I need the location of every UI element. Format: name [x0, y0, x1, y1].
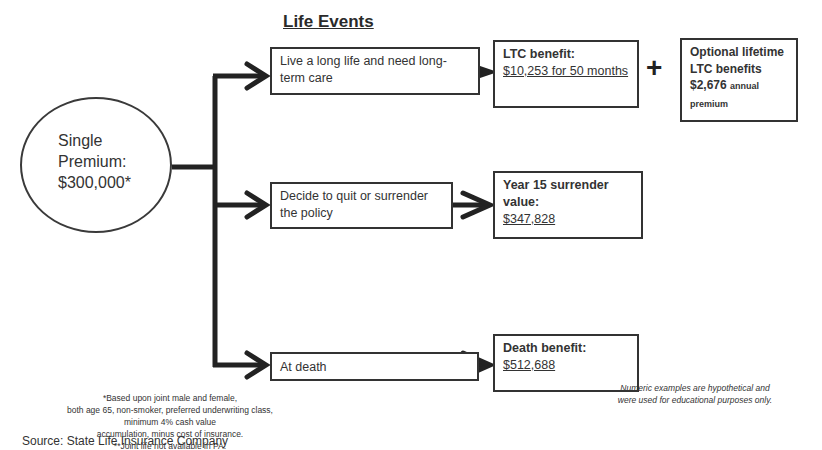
event-box-surrender: Decide to quit or surrender the policy: [270, 182, 453, 229]
disclaimer-line: Numeric examples are hypothetical and: [585, 382, 805, 394]
diagram-title: Life Events: [283, 12, 374, 32]
premium-line-1: Single: [58, 130, 131, 151]
footnote-line: *Based upon joint male and female,: [20, 392, 320, 404]
event-box-death: At death: [270, 352, 479, 381]
event-box-long-term-care: Live a long life and need long-term care: [270, 47, 480, 95]
optional-amount: $2,676: [690, 78, 727, 92]
footnote-line: both age 65, non-smoker, preferred under…: [20, 404, 320, 416]
event-label: At death: [280, 360, 327, 374]
plus-icon: +: [646, 52, 662, 84]
disclaimer: Numeric examples are hypothetical and we…: [585, 382, 805, 406]
premium-label: Single Premium: $300,000*: [58, 130, 131, 193]
event-label: Live a long life and need long-term care: [280, 54, 447, 85]
optional-ltc-box: Optional lifetime LTC benefits $2,676 an…: [680, 38, 798, 122]
premium-amount: $300,000*: [58, 172, 131, 193]
outcome-value: $10,253 for 50 months: [503, 63, 629, 80]
outcome-heading: Year 15 surrender value:: [503, 177, 633, 211]
source-credit: Source: State Life Insurance Company: [22, 434, 228, 448]
footnote-line: minimum 4% cash value: [20, 416, 320, 428]
outcome-heading: Death benefit:: [503, 340, 629, 357]
optional-premium: $2,676 annual premium: [690, 77, 788, 112]
premium-line-2: Premium:: [58, 151, 131, 172]
outcome-value: $512,688: [503, 357, 629, 374]
outcome-heading: LTC benefit:: [503, 46, 629, 63]
outcome-box-surrender-value: Year 15 surrender value: $347,828: [493, 171, 643, 239]
outcome-value: $347,828: [503, 211, 633, 228]
outcome-box-ltc-benefit: LTC benefit: $10,253 for 50 months: [493, 40, 639, 108]
optional-heading: Optional lifetime LTC benefits: [690, 44, 788, 77]
event-label: Decide to quit or surrender the policy: [280, 189, 428, 220]
disclaimer-line: were used for educational purposes only.: [585, 394, 805, 406]
